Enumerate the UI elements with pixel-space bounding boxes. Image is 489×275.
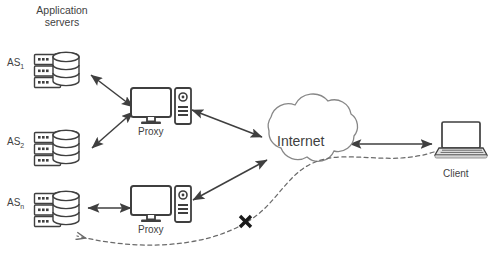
monitor-icon: [131, 186, 171, 222]
node-label-as1: AS1: [7, 57, 24, 71]
monitor-icon: [131, 88, 171, 124]
application-servers-title-line1: Application: [20, 4, 104, 16]
proxy-icon-1: [131, 88, 191, 124]
server-icon-asn: [35, 191, 80, 226]
node-label-asn-text: AS: [7, 197, 20, 208]
node-label-client: Client: [443, 168, 469, 180]
link-as1-proxy1: [91, 75, 133, 107]
server-icon-as1: [35, 52, 80, 87]
network-diagram: [0, 0, 489, 275]
proxy-icon-2: [131, 186, 191, 222]
figure-canvas: Application servers AS1 AS2 ASn Proxy Pr…: [0, 0, 489, 275]
node-label-as2: AS2: [7, 136, 24, 150]
node-label-as1-subscript: 1: [20, 63, 24, 70]
blocked-x-marker: [240, 216, 251, 227]
laptop-icon: [435, 122, 487, 158]
link-proxy2-internet: [193, 160, 267, 200]
link-as2-proxy1: [92, 112, 133, 148]
node-label-proxy-2: Proxy: [138, 224, 164, 236]
server-icon-as2: [35, 130, 80, 165]
node-label-proxy-1: Proxy: [138, 126, 164, 138]
link-proxy1-internet: [192, 110, 262, 137]
application-servers-title-line2: servers: [20, 16, 104, 28]
tower-icon: [175, 186, 191, 222]
cloud-icon: [268, 94, 357, 161]
node-label-internet: Internet: [277, 133, 324, 150]
application-servers-title: Application servers: [20, 4, 104, 29]
tower-icon: [175, 88, 191, 124]
node-label-as2-subscript: 2: [20, 142, 24, 149]
node-label-as1-text: AS: [7, 57, 20, 68]
node-label-as2-text: AS: [7, 136, 20, 147]
node-label-asn: ASn: [7, 197, 24, 211]
node-label-asn-subscript: n: [20, 203, 24, 210]
